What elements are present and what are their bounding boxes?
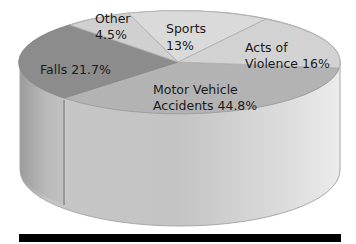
label-falls: Falls 21.7% — [40, 62, 111, 77]
label-other-value: 4.5% — [95, 27, 127, 42]
footer-rule — [19, 234, 341, 242]
label-sports-value: 13% — [166, 38, 194, 53]
label-sports-name: Sports — [166, 21, 206, 36]
label-other-name: Other — [95, 11, 131, 26]
label-motor-line2: Accidents 44.8% — [153, 98, 257, 113]
pie-chart: Other 4.5% Sports 13% Acts of Violence 1… — [0, 0, 356, 244]
label-motor-line1: Motor Vehicle — [153, 82, 238, 97]
label-violence-line2: Violence 16% — [245, 56, 330, 71]
label-violence-line1: Acts of — [245, 40, 288, 55]
